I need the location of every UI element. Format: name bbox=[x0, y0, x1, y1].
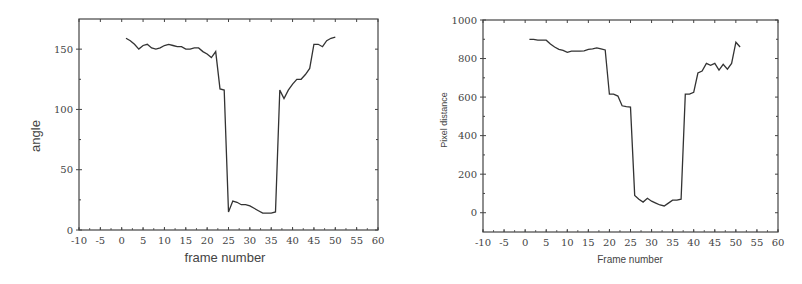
x-tick-label: -10 bbox=[71, 235, 87, 246]
x-tick-label: 45 bbox=[308, 235, 321, 246]
pixel-distance-chart: 02004006008001000 -10-505101520253035404… bbox=[439, 15, 784, 266]
y-tick-label: 0 bbox=[471, 207, 477, 218]
x-tick-label: 15 bbox=[582, 237, 595, 248]
x-tick-label: -10 bbox=[475, 237, 491, 248]
x-tick-label: 50 bbox=[729, 237, 742, 248]
y-tick-label: 0 bbox=[67, 225, 73, 236]
angle-line bbox=[126, 37, 335, 213]
x-tick-label: 0 bbox=[522, 237, 528, 248]
x-tick-label: 30 bbox=[645, 237, 658, 248]
y-tick-label: 400 bbox=[458, 130, 477, 141]
x-axis-ticks: -10-5051015202530354045505560 bbox=[71, 19, 384, 246]
x-tick-label: 10 bbox=[158, 235, 171, 246]
x-tick-label: 25 bbox=[222, 235, 235, 246]
x-tick-label: -5 bbox=[499, 237, 509, 248]
x-tick-label: 0 bbox=[119, 235, 125, 246]
x-tick-label: 30 bbox=[243, 235, 256, 246]
x-axis-label: frame number bbox=[185, 250, 267, 265]
x-tick-label: 20 bbox=[603, 237, 616, 248]
x-tick-label: 45 bbox=[708, 237, 721, 248]
x-tick-label: 40 bbox=[286, 235, 299, 246]
y-axis-label: Pixel distance bbox=[439, 92, 449, 148]
x-tick-label: 5 bbox=[140, 235, 146, 246]
x-tick-label: -5 bbox=[95, 235, 105, 246]
y-axis-label: angle bbox=[28, 120, 43, 152]
x-axis-ticks: -10-5051015202530354045505560 bbox=[475, 20, 784, 248]
x-tick-label: 60 bbox=[772, 237, 785, 248]
figure-canvas: 050100150 -10-5051015202530354045505560 … bbox=[0, 0, 802, 284]
y-axis-ticks: 02004006008001000 bbox=[452, 15, 778, 219]
y-tick-label: 50 bbox=[60, 164, 73, 175]
x-axis-label: Frame number bbox=[597, 254, 663, 265]
y-tick-label: 100 bbox=[54, 104, 73, 115]
y-tick-label: 200 bbox=[458, 169, 477, 180]
x-tick-label: 35 bbox=[265, 235, 278, 246]
y-tick-label: 150 bbox=[54, 44, 73, 55]
x-tick-label: 25 bbox=[624, 237, 637, 248]
x-tick-label: 60 bbox=[372, 235, 385, 246]
pixel-distance-line bbox=[529, 39, 740, 206]
y-tick-label: 1000 bbox=[452, 15, 477, 26]
x-tick-label: 10 bbox=[561, 237, 574, 248]
y-axis-ticks: 050100150 bbox=[54, 44, 378, 236]
y-tick-label: 600 bbox=[458, 92, 477, 103]
x-tick-label: 5 bbox=[543, 237, 549, 248]
x-tick-label: 20 bbox=[201, 235, 214, 246]
x-tick-label: 40 bbox=[687, 237, 700, 248]
angle-chart: 050100150 -10-5051015202530354045505560 … bbox=[28, 19, 384, 265]
x-tick-label: 15 bbox=[179, 235, 192, 246]
x-tick-label: 35 bbox=[666, 237, 679, 248]
y-tick-label: 800 bbox=[458, 53, 477, 64]
x-tick-label: 55 bbox=[350, 235, 363, 246]
x-tick-label: 50 bbox=[329, 235, 342, 246]
x-tick-label: 55 bbox=[751, 237, 764, 248]
